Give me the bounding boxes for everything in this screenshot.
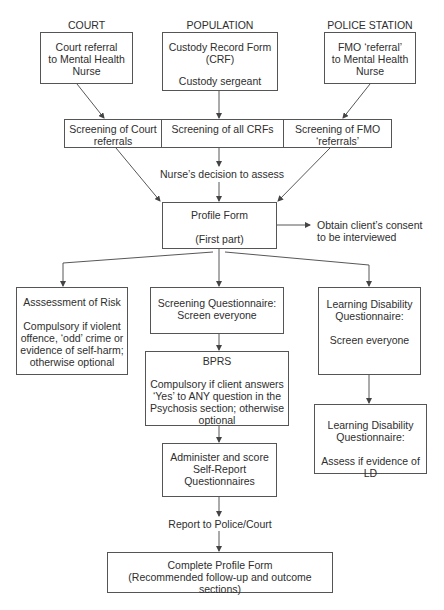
risk-body-line-2: offence, ‘odd’ crime or	[17, 332, 127, 344]
ld-assess-title-1: Learning Disability	[315, 419, 426, 431]
complete-profile-form-box: Complete Profile Form (Recommended follo…	[107, 552, 333, 593]
risk-body-line-4: otherwise optional	[17, 356, 127, 368]
screening-all-crfs-box: Screening of all CRFs	[161, 119, 284, 148]
report-label: Report to Police/Court	[165, 518, 275, 530]
screening-fmo-line-2: ‘referrals’	[284, 135, 391, 147]
screening-court-line-2: referrals	[65, 135, 161, 147]
screening-questionnaire-box: Screening Questionnaire: Screen everyone	[150, 287, 284, 334]
ld-assess-body: Assess if evidence of LD	[315, 455, 426, 479]
column-header-population: POPULATION	[162, 19, 278, 31]
fmo-referral-line-3: Nurse	[325, 65, 415, 77]
flowchart: COURT POPULATION POLICE STATION Court re…	[0, 0, 444, 610]
court-referral-line-1: Court referral	[41, 41, 132, 53]
administer-line-3: Questionnaires	[163, 475, 276, 487]
ld-assess-title-2: Questionnaire:	[315, 431, 426, 443]
nurse-decision-label: Nurse’s decision to assess	[160, 168, 280, 180]
risk-body-line-3: evidence of self-harm;	[17, 344, 127, 356]
administer-line-1: Administer and score	[163, 451, 276, 463]
bprs-box: BPRS Compulsory if client answers ‘Yes’ …	[145, 351, 289, 426]
ld-screen-box: Learning Disability Questionnaire: Scree…	[318, 287, 421, 375]
court-referral-line-3: Nurse	[41, 65, 132, 77]
bprs-title: BPRS	[146, 355, 288, 367]
fmo-referral-box: FMO ‘referral’ to Mental Health Nurse	[324, 32, 416, 84]
fmo-referral-line-1: FMO ‘referral’	[325, 41, 415, 53]
crf-line-2: (CRF)	[163, 53, 277, 65]
custody-sergeant-label: Custody sergeant	[163, 75, 277, 87]
profile-form-title: Profile Form	[163, 209, 276, 221]
consent-line-1: Obtain client’s consent	[317, 219, 437, 231]
bprs-body-line-3: Psychosis section; otherwise	[146, 402, 288, 414]
profile-form-box: Profile Form (First part)	[162, 202, 277, 249]
consent-line-2: to be interviewed	[317, 231, 437, 243]
crf-line-1: Custody Record Form	[163, 41, 277, 53]
column-header-court: COURT	[40, 19, 133, 31]
court-referral-line-2: to Mental Health	[41, 53, 132, 65]
consent-label: Obtain client’s consent to be interviewe…	[317, 219, 437, 243]
screening-fmo-line-1: Screening of FMO	[284, 123, 391, 135]
ld-screen-title-2: Questionnaire:	[319, 310, 420, 322]
ld-screen-title-1: Learning Disability	[319, 298, 420, 310]
ld-screen-body: Screen everyone	[319, 334, 420, 346]
complete-form-title: Complete Profile Form	[108, 559, 332, 571]
screening-all-crfs-label: Screening of all CRFs	[162, 123, 283, 135]
risk-body-line-1: Compulsory if violent	[17, 320, 127, 332]
bprs-body-line-4: optional	[146, 414, 288, 426]
custody-record-form-box: Custody Record Form (CRF) Custody sergea…	[162, 32, 278, 91]
fmo-referral-line-2: to Mental Health	[325, 53, 415, 65]
complete-form-subtitle: (Recommended follow-up and outcome secti…	[108, 571, 332, 595]
screening-questionnaire-title: Screening Questionnaire:	[151, 297, 283, 309]
profile-form-subtitle: (First part)	[163, 233, 276, 245]
ld-assess-box: Learning Disability Questionnaire: Asses…	[314, 404, 427, 474]
court-referral-box: Court referral to Mental Health Nurse	[40, 32, 133, 84]
assessment-of-risk-box: Asssessment of Risk Compulsory if violen…	[16, 287, 128, 375]
screening-court-line-1: Screening of Court	[65, 123, 161, 135]
administer-line-2: Self-Report	[163, 463, 276, 475]
screening-fmo-referrals-box: Screening of FMO ‘referrals’	[283, 119, 392, 148]
screening-questionnaire-body: Screen everyone	[151, 309, 283, 321]
bprs-body-line-2: ‘Yes’ to ANY question in the	[146, 390, 288, 402]
bprs-body-line-1: Compulsory if client answers	[146, 378, 288, 390]
administer-questionnaires-box: Administer and score Self-Report Questio…	[162, 443, 277, 497]
column-header-police-station: POLICE STATION	[314, 19, 426, 31]
screening-court-referrals-box: Screening of Court referrals	[64, 119, 162, 148]
risk-title: Asssessment of Risk	[17, 296, 127, 308]
